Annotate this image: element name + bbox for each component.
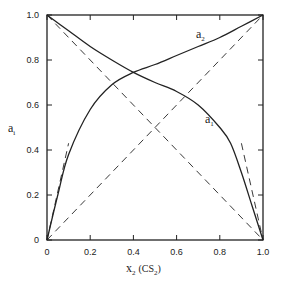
y-tick-label: 0.6	[26, 100, 39, 110]
chart-series	[47, 15, 263, 240]
y-tick-label: 0.4	[26, 145, 39, 155]
x-tick-label: 0.4	[127, 247, 140, 257]
series-henry-tangent-a2-line	[47, 143, 69, 240]
y-tick-label: 0.8	[26, 55, 39, 65]
x-tick-label: 0.6	[170, 247, 183, 257]
y-tick-label: 0	[34, 235, 39, 245]
x-tick-label: 0.2	[84, 247, 97, 257]
y-axis-label: ai	[8, 121, 15, 137]
x-tick-label: 0.8	[214, 247, 227, 257]
series-henry-tangent-a1-line	[241, 143, 263, 240]
curve-label-a2: a2	[196, 27, 205, 43]
y-tick-label: 1.0	[26, 10, 39, 20]
x-tick-label: 1.0	[257, 247, 270, 257]
activity-chart: 00.20.40.60.81.000.20.40.60.81.0 ai x2(C…	[0, 0, 283, 288]
x-axis-label: x2(CS2)	[126, 261, 161, 277]
curve-label-a1: a1	[205, 112, 214, 128]
y-tick-label: 0.2	[26, 190, 39, 200]
x-tick-label: 0	[44, 247, 49, 257]
